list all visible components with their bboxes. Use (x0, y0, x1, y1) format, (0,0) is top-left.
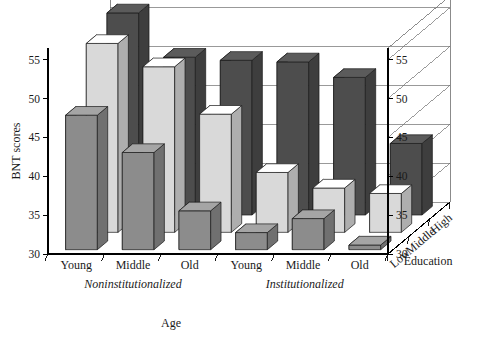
y-tick-label-left: 55 (29, 54, 41, 66)
bar-side (175, 58, 185, 232)
y-tick-label-right: 55 (396, 54, 408, 66)
y-tick-label-right: 45 (396, 131, 408, 143)
y-tick-label-left: 40 (29, 170, 41, 182)
bar-front (256, 172, 288, 232)
bar-front (179, 211, 211, 250)
x-category-label: Old (181, 258, 199, 272)
chart-figure: 303035354040454550505555 YoungMiddleOldY… (0, 0, 488, 344)
bar-side (345, 179, 355, 232)
x-category-label: Middle (116, 258, 151, 272)
x-category-label: Old (351, 258, 369, 272)
y-tick-label-right: 50 (396, 93, 408, 105)
y-tick-label-left: 35 (29, 209, 41, 221)
bar-side (154, 144, 164, 250)
y-tick-label-right: 35 (396, 209, 408, 221)
x-group-label: Institutionalized (265, 277, 345, 291)
z-axis-title: Education (404, 254, 453, 268)
y-tick-label-right: 40 (396, 170, 408, 182)
bar-front (349, 245, 381, 250)
bnt-scores-3d-bar-chart: 303035354040454550505555 YoungMiddleOldY… (0, 0, 488, 344)
x-category-label: Middle (286, 258, 321, 272)
x-category-label: Young (231, 258, 262, 272)
x-group-label: Noninstitutionalized (83, 277, 182, 291)
bar-front (122, 153, 154, 250)
bar-side (231, 106, 241, 233)
y-tick-label-left: 45 (29, 131, 41, 143)
y-axis-title: BNT scores (9, 122, 23, 179)
y-tick-label-left: 50 (29, 93, 41, 105)
x-category-label: Young (61, 258, 92, 272)
bar (66, 107, 108, 250)
bar (122, 144, 164, 250)
bar-front (66, 115, 98, 249)
bar-side (97, 107, 107, 250)
bar (292, 210, 334, 250)
bar-front (236, 233, 268, 250)
bar-front (292, 219, 324, 250)
bar (236, 224, 278, 250)
bar-side (422, 135, 432, 215)
bar (179, 202, 221, 250)
x-axis-title: Age (161, 316, 181, 330)
y-tick-label-left: 30 (29, 248, 41, 260)
